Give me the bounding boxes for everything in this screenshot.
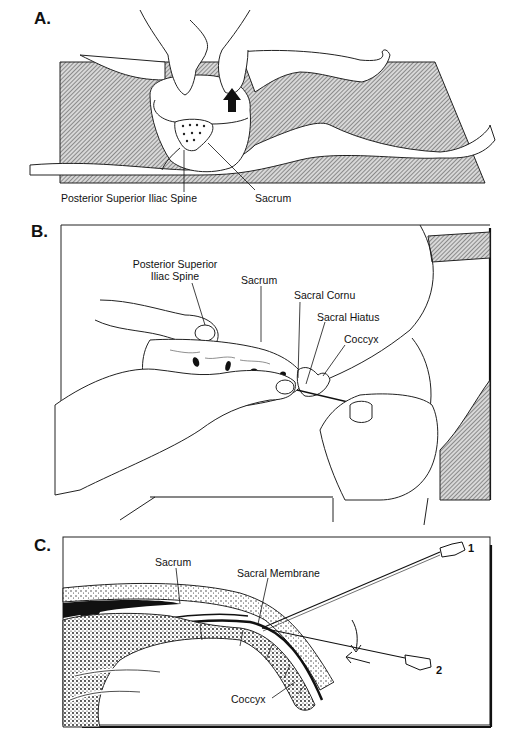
panel-b-label-coccyx: Coccyx <box>344 333 378 345</box>
panel-c-letter: C. <box>34 536 51 556</box>
panel-c-label-sacrum: Sacrum <box>155 556 191 568</box>
panel-b-label-sacral-cornu: Sacral Cornu <box>294 289 355 301</box>
panel-b-letter: B. <box>31 222 48 242</box>
panel-b-label-sacral-hiatus: Sacral Hiatus <box>317 311 379 323</box>
panel-b-label-sacrum: Sacrum <box>241 274 277 286</box>
illustration-canvas <box>0 0 506 736</box>
panel-c-label-sacral-membrane: Sacral Membrane <box>237 567 320 579</box>
panel-a-label-psis: Posterior Superior Iliac Spine <box>61 192 197 204</box>
panel-a-drawing <box>30 10 495 192</box>
needle-2-label: 2 <box>436 664 442 676</box>
panel-c-drawing <box>63 537 491 727</box>
panel-b-label-psis-line1: Posterior Superior <box>125 258 225 270</box>
panel-c-label-coccyx: Coccyx <box>231 693 265 705</box>
needle-1-label: 1 <box>468 542 474 554</box>
panel-a-letter: A. <box>34 9 51 29</box>
panel-b-label-psis-line2: Iliac Spine <box>125 270 225 282</box>
panel-a-label-sacrum: Sacrum <box>255 192 291 204</box>
panel-b-drawing <box>55 225 490 525</box>
